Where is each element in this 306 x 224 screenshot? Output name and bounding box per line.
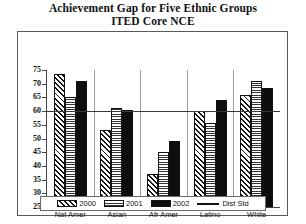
legend-label: 2002 — [173, 199, 190, 208]
legend-item: 2002 — [151, 199, 190, 208]
chart-frame: 7570656055504540353025 Nat AmerAsianAfr … — [17, 31, 288, 216]
legend-label: 2000 — [79, 199, 96, 208]
legend-label: Dist Std — [222, 199, 248, 208]
y-axis-tick-label: 75 — [33, 66, 41, 74]
bar-2002 — [216, 100, 227, 207]
x-axis-label: White — [247, 210, 266, 219]
bar-2001 — [205, 123, 216, 207]
legend-swatch-y2000 — [57, 200, 77, 207]
bar-2001 — [251, 81, 262, 207]
bar-2002 — [122, 110, 133, 207]
bar-group — [187, 70, 234, 207]
legend-swatch-y2001 — [104, 200, 124, 207]
y-axis-tick-label: 60 — [33, 107, 41, 115]
bar-2002 — [262, 88, 273, 207]
x-axis-label: Afr Amer — [149, 210, 178, 219]
chart-legend: 200020012002Dist Std — [40, 196, 266, 211]
chart-page: Achievement Gap for Five Ethnic Groups I… — [0, 0, 306, 224]
x-axis-label: Latino — [200, 210, 220, 219]
y-axis-tick-label: 45 — [33, 148, 41, 156]
legend-item: 2001 — [104, 199, 143, 208]
legend-item: Dist Std — [197, 199, 248, 208]
dist-std-reference-line — [47, 111, 280, 112]
bar-group — [140, 70, 187, 207]
bar-2002 — [76, 81, 87, 207]
y-axis-tick-label: 70 — [33, 80, 41, 88]
x-axis-labels: Nat AmerAsianAfr AmerLatinoWhite — [47, 210, 280, 222]
legend-item: 2000 — [57, 199, 96, 208]
y-axis-tick-label: 40 — [33, 162, 41, 170]
bar-2001 — [65, 97, 76, 207]
page-title: Achievement Gap for Five Ethnic Groups — [0, 2, 306, 15]
bar-2000 — [54, 74, 65, 207]
chart-subtitle: ITED Core NCE — [0, 15, 306, 28]
y-axis-tick-label: 55 — [33, 121, 41, 129]
x-axis-label: Asian — [108, 210, 127, 219]
x-axis-label: Nat Amer — [55, 210, 86, 219]
chart-title-block: Achievement Gap for Five Ethnic Groups I… — [0, 2, 306, 28]
y-axis-tick-label: 35 — [33, 176, 41, 184]
bar-group — [47, 70, 94, 207]
plot-area: 7570656055504540353025 Nat AmerAsianAfr … — [18, 32, 289, 217]
y-axis-tick-label: 50 — [33, 135, 41, 143]
legend-swatch-y2002 — [151, 200, 171, 207]
bar-group — [94, 70, 141, 207]
bar-series-container — [47, 70, 280, 207]
legend-swatch-line — [197, 203, 219, 205]
bar-2001 — [111, 108, 122, 207]
bar-2000 — [194, 111, 205, 207]
bar-group — [233, 70, 280, 207]
y-axis-labels: 7570656055504540353025 — [22, 70, 41, 207]
y-axis-tick-label: 65 — [33, 93, 41, 101]
legend-label: 2001 — [126, 199, 143, 208]
